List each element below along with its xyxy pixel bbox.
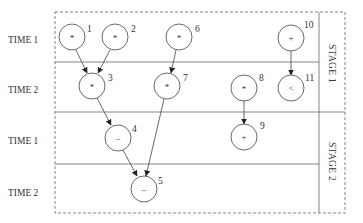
nodes: * 1 * 2 * 3 – 4 – 5 * 6 *: [59, 20, 314, 202]
node-3: * 3: [79, 73, 113, 99]
node-5-op: –: [141, 184, 147, 194]
edge-2-3: [98, 50, 110, 73]
node-6: * 6: [166, 24, 200, 50]
node-3-op: *: [90, 82, 95, 92]
row-labels: TIME 1 TIME 2 TIME 1 TIME 2: [8, 35, 39, 198]
edge-1-3: [76, 50, 87, 73]
node-8-label: 8: [259, 73, 264, 83]
node-11-op: <: [288, 83, 293, 93]
node-11: < 11: [278, 73, 314, 101]
node-1-op: *: [70, 33, 75, 43]
node-9-label: 9: [260, 121, 265, 131]
node-10: + 10: [278, 20, 314, 51]
row-label-3: TIME 1: [8, 136, 39, 146]
row-label-4: TIME 2: [8, 188, 39, 198]
edge-6-7: [171, 50, 176, 73]
node-7-label: 7: [183, 73, 188, 83]
node-11-label: 11: [305, 73, 314, 83]
node-5: – 5: [131, 176, 163, 202]
edge-3-4: [97, 98, 111, 125]
node-2-op: *: [113, 33, 118, 43]
stage-label-2: STAGE 2: [327, 142, 337, 181]
row-label-1: TIME 1: [8, 35, 39, 45]
node-7: * 7: [154, 73, 188, 99]
node-10-label: 10: [304, 20, 314, 30]
node-10-op: +: [288, 33, 293, 43]
node-7-op: *: [165, 82, 170, 92]
node-9-op: +: [241, 132, 246, 142]
stage-label-1: STAGE 1: [327, 44, 337, 83]
pipeline-schedule-diagram: TIME 1 TIME 2 TIME 1 TIME 2 STAGE 1 STAG…: [0, 0, 363, 223]
edge-7-5: [146, 99, 164, 176]
node-9: + 9: [231, 121, 265, 150]
node-8-op: *: [242, 84, 247, 94]
node-1: * 1: [59, 24, 92, 50]
node-3-label: 3: [108, 73, 113, 83]
node-1-label: 1: [87, 24, 92, 34]
node-6-op: *: [177, 33, 182, 43]
node-4: – 4: [105, 124, 137, 151]
edges: [76, 50, 291, 176]
row-label-2: TIME 2: [8, 85, 39, 95]
node-6-label: 6: [195, 24, 200, 34]
edge-4-5: [123, 150, 137, 176]
node-5-label: 5: [158, 176, 163, 186]
node-4-label: 4: [132, 124, 137, 134]
node-8: * 8: [231, 73, 264, 101]
node-2: * 2: [102, 24, 136, 50]
node-4-op: –: [115, 133, 121, 143]
node-2-label: 2: [131, 24, 136, 34]
